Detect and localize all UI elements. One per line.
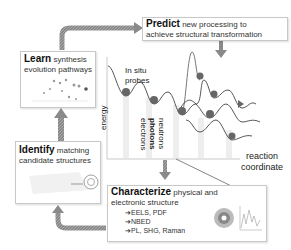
learn-scatter-thumbnail [24,77,94,105]
learn-keyword: Learn [24,53,51,64]
arrow-characterize-to-identify [52,205,106,228]
arrow-learn-to-predict [62,22,143,50]
arrow-predict-down [215,40,227,58]
y-axis-label: energy [99,106,108,130]
characterize-keyword: Characterize [111,186,171,197]
characterize-text-1: physical and [173,188,217,197]
identify-text-1: matching [57,146,89,155]
x-axis-label: reaction coordinate [241,151,283,173]
probe-label-neutrons: neutrons [157,118,166,149]
characterize-thumbnails [214,202,264,234]
characterize-box: Characterize physical and electronic str… [107,185,267,242]
identify-keyword: Identify [19,144,55,155]
probe-label-photons: photons [148,118,157,150]
probe-label-electrons: electrons [139,118,148,150]
identify-structure-thumbnail [19,168,99,198]
predict-text-2: achieve structural transformation [146,30,284,40]
learn-box: Learn synthesis evolution pathways [20,51,96,108]
arrow-chart-to-characterize [159,160,171,180]
arrow-identify-to-learn [54,108,68,145]
in-situ-probes-label: In situ probes [125,66,149,86]
identify-text-2: candidate structures [19,156,97,166]
predict-box: Predict new processing to achieve struct… [142,17,288,41]
learn-text-1: synthesis [53,55,86,64]
predict-keyword: Predict [146,18,180,29]
identify-box: Identify matching candidate structures [15,141,101,204]
predict-text-1: new processing to [182,20,246,29]
learn-text-2: evolution pathways [24,65,92,75]
